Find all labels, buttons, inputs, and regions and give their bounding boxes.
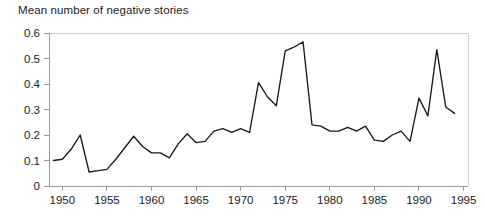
data-series-group (53, 42, 454, 172)
x-tick-label: 1960 (139, 194, 165, 206)
x-tick-label: 1965 (183, 194, 209, 206)
chart-figure: Mean number of negative stories 00.10.20… (0, 0, 485, 218)
y-tick-label: 0.3 (24, 104, 40, 116)
x-tick-label: 1990 (406, 194, 432, 206)
y-tick-label: 0.2 (24, 129, 40, 141)
x-tick-label: 1955 (94, 194, 120, 206)
x-tick-label: 1980 (317, 194, 343, 206)
x-tick-label: 1985 (362, 194, 388, 206)
y-tick-label: 0.4 (24, 78, 41, 90)
x-tick-label: 1950 (50, 194, 76, 206)
y-tick-label: 0.1 (24, 155, 40, 167)
x-tick-label: 1995 (451, 194, 477, 206)
y-axis-ticks: 00.10.20.30.40.50.6 (24, 27, 49, 192)
line-chart-plot: 00.10.20.30.40.50.6 19501955196019651970… (0, 0, 485, 218)
x-axis-ticks: 1950195519601965197019751980198519901995 (50, 186, 477, 206)
y-tick-label: 0.6 (24, 27, 40, 39)
y-tick-label: 0 (34, 180, 40, 192)
y-tick-label: 0.5 (24, 53, 40, 65)
x-tick-label: 1975 (272, 194, 298, 206)
data-series-line (53, 42, 454, 172)
x-tick-label: 1970 (228, 194, 254, 206)
